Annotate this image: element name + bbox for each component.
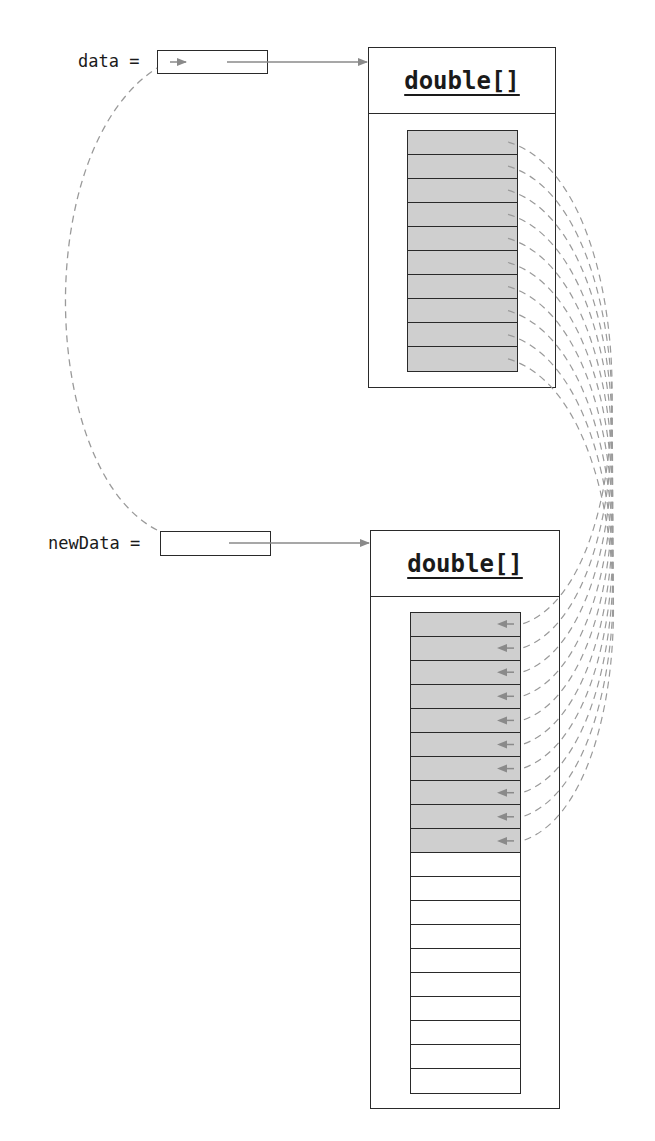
array-cell [411, 805, 520, 829]
array-cell [411, 997, 520, 1021]
array-cell [411, 685, 520, 709]
array-cell [411, 973, 520, 997]
array-cell [411, 901, 520, 925]
array-cell [408, 323, 517, 347]
array-cell [408, 251, 517, 275]
array-cell [408, 299, 517, 323]
old-array-type-label: double[] [404, 67, 520, 95]
old-array-cells [407, 130, 518, 372]
array-cell [408, 131, 517, 155]
newdata-variable-label: newData = [48, 535, 140, 552]
array-cell [411, 877, 520, 901]
array-cell [411, 637, 520, 661]
old-array-header: double[] [369, 48, 555, 114]
array-cell [411, 757, 520, 781]
array-cell [408, 155, 517, 179]
array-cell [411, 709, 520, 733]
array-cell [411, 613, 520, 637]
array-cell [408, 203, 517, 227]
array-cell [411, 733, 520, 757]
array-cell [411, 949, 520, 973]
new-array-cells [410, 612, 521, 1094]
array-cell [408, 227, 517, 251]
array-cell [408, 347, 517, 371]
old-array-object: double[] [368, 47, 556, 388]
new-array-object: double[] [370, 530, 560, 1109]
array-cell [411, 1021, 520, 1045]
new-array-header: double[] [371, 531, 559, 597]
newdata-reference-box [160, 531, 271, 556]
data-variable-label: data = [78, 53, 139, 70]
array-cell [408, 179, 517, 203]
array-cell [411, 1069, 520, 1093]
reference-copy-dashed-arrow [65, 68, 157, 530]
array-cell [411, 925, 520, 949]
array-cell [408, 275, 517, 299]
array-cell [411, 853, 520, 877]
array-cell [411, 661, 520, 685]
data-reference-box [157, 50, 268, 74]
array-cell [411, 781, 520, 805]
new-array-type-label: double[] [407, 550, 523, 578]
array-cell [411, 1045, 520, 1069]
array-cell [411, 829, 520, 853]
